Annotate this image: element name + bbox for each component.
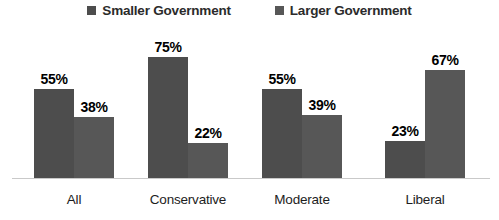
bar-value-label: 23% <box>391 124 418 138</box>
bar-value-label: 38% <box>80 100 107 114</box>
bar-group: 23%67%Liberal <box>385 0 465 220</box>
plot-area: 55%38%All75%22%Conservative55%39%Moderat… <box>0 0 499 220</box>
bar: 39% <box>302 115 342 178</box>
bar: 23% <box>385 141 425 178</box>
bar-pair: 75%22% <box>148 57 228 178</box>
bar: 55% <box>34 89 74 178</box>
bar-value-label: 75% <box>154 40 181 54</box>
x-axis-category-label: Moderate <box>262 193 342 207</box>
bar-group: 55%39%Moderate <box>262 0 342 220</box>
bar-group: 55%38%All <box>34 0 114 220</box>
bar-pair: 55%39% <box>262 89 342 178</box>
bar-group: 75%22%Conservative <box>148 0 228 220</box>
bar-value-label: 22% <box>194 126 221 140</box>
bar: 75% <box>148 57 188 178</box>
bar: 55% <box>262 89 302 178</box>
bar-pair: 23%67% <box>385 70 465 178</box>
bar-value-label: 67% <box>431 53 458 67</box>
bar-pair: 55%38% <box>34 89 114 178</box>
x-axis-category-label: All <box>34 193 114 207</box>
x-axis-category-label: Liberal <box>385 193 465 207</box>
bar-value-label: 39% <box>308 98 335 112</box>
bar-chart: Smaller Government Larger Government 55%… <box>0 0 499 220</box>
bar: 38% <box>74 117 114 178</box>
bar: 67% <box>425 70 465 178</box>
bar: 22% <box>188 143 228 178</box>
bar-value-label: 55% <box>268 72 295 86</box>
x-axis-category-label: Conservative <box>148 193 228 207</box>
bar-value-label: 55% <box>40 72 67 86</box>
